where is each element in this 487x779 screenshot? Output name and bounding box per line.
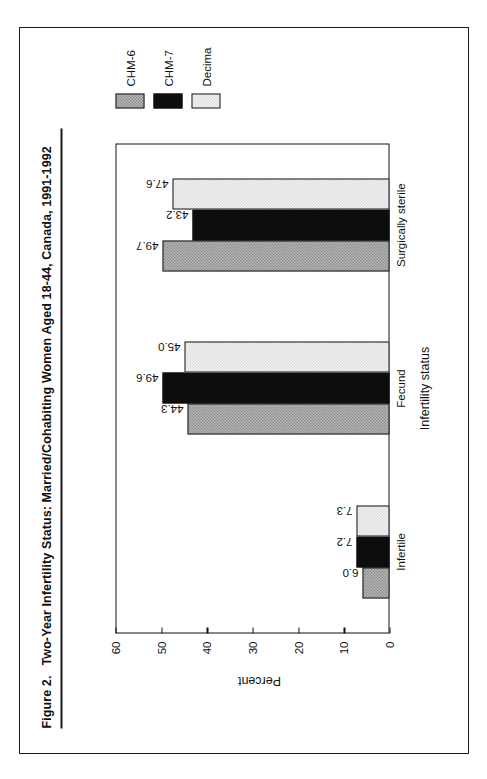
bar-value-label: 47.6 [145,177,167,189]
bar-value-label: 7.3 [336,504,352,516]
chart-legend: CHM-6CHM-7Decima [115,47,229,108]
value-axis-tick-label: 30 [246,641,258,654]
legend-item-chm-7: CHM-7 [153,47,182,108]
value-axis-tick-label: 60 [109,641,121,654]
category-axis-title: Infertility status [417,143,431,633]
bar-fecund-chm-6 [187,404,389,435]
legend-item-chm-6: CHM-6 [115,47,144,108]
bar-value-label: 45.0 [157,341,179,353]
value-axis-tick-label: 50 [155,641,167,654]
category-label-surgically-sterile: Surgically sterile [394,183,406,267]
value-axis-tick [298,627,299,633]
bar-infertile-chm-6 [362,567,389,598]
legend-item-decima: Decima [191,47,220,108]
value-axis-tick-label: 0 [383,641,395,647]
title-underline-rule [60,128,62,728]
bar-fecund-decima [184,342,390,373]
value-axis-tick-label: 10 [337,641,349,654]
legend-label: Decima [200,47,212,86]
legend-swatch-chm-6 [115,93,144,108]
value-axis-tick [389,627,390,633]
value-axis-tick-label: 20 [292,641,304,654]
bar-value-label: 7.2 [336,535,352,547]
figure-number: Figure 2. [39,675,53,728]
value-axis-tick [161,627,162,633]
legend-label: CHM-6 [124,50,136,86]
legend-swatch-decima [191,93,220,108]
category-label-infertile: Infertile [394,532,406,570]
value-axis-tick-label: 40 [200,641,212,654]
bar-fecund-chm-7 [162,373,389,404]
bar-surgically-sterile-decima [172,178,389,209]
bar-value-label: 43.2 [165,208,187,220]
value-axis-tick [206,627,207,633]
value-axis-title: Percent [237,673,280,687]
value-axis-tick [343,627,344,633]
category-label-fecund: Fecund [394,369,406,407]
bar-infertile-decima [356,505,389,536]
rotated-figure-wrapper: Figure 2.Two-Year Infertility Status: Ma… [19,27,469,754]
bar-value-label: 49.7 [136,239,158,251]
bar-infertile-chm-7 [356,536,389,567]
bar-value-label: 44.3 [160,403,182,415]
bar-value-label: 6.0 [342,566,358,578]
legend-label: CHM-7 [162,50,174,86]
figure-title-text: Two-Year Infertility Status: Married/Coh… [39,146,53,665]
category-axis-labels: InfertileFecundSurgically sterile [391,143,413,633]
value-axis-tick [115,627,116,633]
value-axis-tick [252,627,253,633]
bar-surgically-sterile-chm-6 [162,240,389,271]
bar-value-label: 49.6 [136,372,158,384]
legend-swatch-chm-7 [153,93,182,108]
figure-title: Figure 2.Two-Year Infertility Status: Ma… [39,146,53,728]
figure-canvas: Figure 2.Two-Year Infertility Status: Ma… [19,27,469,754]
bar-surgically-sterile-chm-7 [192,209,389,240]
